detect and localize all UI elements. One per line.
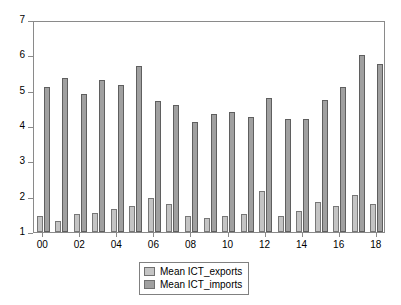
x-axis-tick-label: 02 — [70, 239, 88, 251]
bar-imports-15 — [322, 100, 328, 233]
y-axis: 1234567 — [0, 21, 33, 234]
x-axis-tick-label: 14 — [293, 239, 311, 251]
bar-imports-18 — [377, 64, 383, 232]
bar-imports-07 — [173, 105, 179, 232]
x-axis-tick-label: 08 — [181, 239, 199, 251]
legend-swatch-exports-icon — [144, 267, 155, 276]
bar-exports-04 — [111, 209, 117, 232]
x-axis-tick-mark — [190, 233, 191, 237]
bar-exports-17 — [352, 195, 358, 232]
bar-chart: 1234567 00020406081012141618 Mean ICT_ex… — [0, 0, 401, 305]
legend-item-exports: Mean ICT_exports — [144, 265, 242, 278]
bar-imports-05 — [136, 66, 142, 232]
bar-imports-08 — [192, 122, 198, 232]
bar-imports-16 — [340, 87, 346, 232]
y-axis-tick-label: 1 — [19, 226, 25, 238]
x-axis-tick-mark — [376, 233, 377, 237]
bar-imports-10 — [229, 112, 235, 232]
bar-exports-09 — [204, 218, 210, 232]
y-axis-tick-label: 6 — [19, 49, 25, 61]
bar-imports-09 — [211, 114, 217, 232]
bar-exports-14 — [296, 211, 302, 232]
bar-exports-06 — [148, 198, 154, 232]
bar-imports-02 — [81, 94, 87, 232]
x-axis-tick-mark — [42, 233, 43, 237]
y-axis-tick-label: 5 — [19, 85, 25, 97]
y-axis-tick-label: 7 — [19, 14, 25, 26]
x-axis-tick-mark — [79, 233, 80, 237]
bar-exports-02 — [74, 214, 80, 232]
bar-imports-12 — [266, 98, 272, 232]
plot-area — [33, 21, 385, 233]
x-axis-tick-label: 04 — [107, 239, 125, 251]
bar-exports-03 — [92, 213, 98, 232]
legend-swatch-imports-icon — [144, 280, 155, 289]
x-axis-tick-mark — [228, 233, 229, 237]
bar-imports-06 — [155, 101, 161, 232]
x-axis-tick-mark — [302, 233, 303, 237]
bar-imports-13 — [285, 119, 291, 232]
x-axis-tick-label: 18 — [367, 239, 385, 251]
bar-imports-03 — [99, 80, 105, 232]
bar-exports-10 — [222, 216, 228, 232]
bar-exports-16 — [333, 206, 339, 233]
bar-exports-08 — [185, 216, 191, 232]
x-axis-tick-mark — [265, 233, 266, 237]
bar-exports-13 — [278, 216, 284, 232]
bar-exports-01 — [55, 221, 61, 232]
bar-imports-01 — [62, 78, 68, 232]
x-axis: 00020406081012141618 — [33, 233, 386, 259]
bar-exports-12 — [259, 191, 265, 232]
bar-exports-18 — [370, 204, 376, 232]
x-axis-tick-label: 12 — [256, 239, 274, 251]
bar-exports-00 — [37, 216, 43, 232]
bar-imports-11 — [248, 117, 254, 232]
bar-exports-05 — [129, 206, 135, 233]
bar-imports-17 — [359, 55, 365, 232]
legend-label-imports: Mean ICT_imports — [160, 279, 242, 291]
bar-exports-07 — [166, 204, 172, 232]
bar-imports-04 — [118, 85, 124, 232]
x-axis-tick-label: 16 — [330, 239, 348, 251]
x-axis-tick-label: 06 — [144, 239, 162, 251]
bar-imports-00 — [44, 87, 50, 232]
x-axis-tick-label: 00 — [33, 239, 51, 251]
x-axis-tick-label: 10 — [219, 239, 237, 251]
x-axis-tick-mark — [153, 233, 154, 237]
y-axis-tick-label: 3 — [19, 155, 25, 167]
bar-exports-15 — [315, 202, 321, 232]
x-axis-tick-mark — [116, 233, 117, 237]
y-axis-tick-label: 4 — [19, 120, 25, 132]
legend-label-exports: Mean ICT_exports — [160, 266, 242, 278]
bar-imports-14 — [303, 119, 309, 232]
y-axis-tick-label: 2 — [19, 191, 25, 203]
x-axis-tick-mark — [339, 233, 340, 237]
legend-item-imports: Mean ICT_imports — [144, 278, 242, 291]
chart-legend: Mean ICT_exports Mean ICT_imports — [139, 262, 249, 295]
bar-exports-11 — [241, 214, 247, 232]
